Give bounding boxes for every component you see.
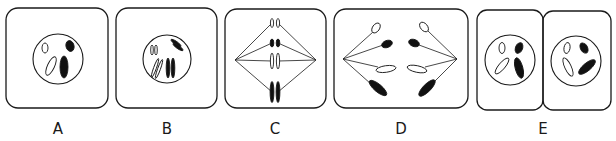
cell-division-diagram [0, 0, 616, 141]
spindle-fiber [343, 32, 373, 59]
panel-label-d: D [386, 120, 416, 138]
chromosome-light [44, 55, 59, 76]
chromosome-dark [166, 58, 170, 78]
chromosome-dark [577, 57, 598, 76]
chromosome-dark [408, 38, 421, 48]
chromosome-dark [171, 58, 175, 78]
spindle-fiber [428, 31, 457, 59]
chromosome-dark [276, 39, 280, 47]
chromosome-dark [367, 78, 389, 98]
panel-label-c: C [260, 120, 290, 138]
chromosome-light [493, 56, 511, 75]
chromosome-dark [60, 56, 68, 78]
chromosome-dark [578, 41, 590, 54]
chromosome-dark [514, 42, 525, 55]
chromosome-dark [276, 82, 280, 103]
panel-e [477, 10, 611, 110]
spindle-fiber [432, 59, 457, 84]
chromosome-light [42, 43, 48, 53]
spindle-fiber [343, 59, 371, 84]
spindle-fiber [278, 60, 316, 92]
cell-membrane [334, 9, 468, 108]
chromosome-dark [270, 82, 274, 103]
cell-membrane [116, 8, 217, 108]
chromosome-dark [381, 39, 394, 49]
cell-membrane [477, 10, 543, 110]
panel-b [116, 8, 217, 108]
cell-membrane [6, 8, 108, 108]
chromosome-light [270, 53, 273, 69]
chromosome-light [563, 42, 571, 54]
panel-c [225, 9, 326, 108]
chromosome-light [151, 45, 154, 55]
spindle-fiber [235, 60, 272, 92]
panel-label-a: A [43, 120, 73, 138]
spindle-fiber [278, 43, 316, 60]
chromosome-light [270, 19, 273, 28]
chromosome-light [155, 45, 158, 55]
spindle-fiber [419, 45, 457, 59]
chromosome-light [561, 57, 575, 78]
nucleus [33, 34, 83, 84]
spindle-fiber [235, 60, 272, 61]
spindle-fiber [278, 23, 316, 60]
spindle-fiber [425, 59, 457, 67]
spindle-fiber [278, 60, 316, 61]
panel-d [334, 9, 468, 108]
panel-label-b: B [152, 120, 182, 138]
spindle-fiber [235, 23, 272, 60]
nucleus [485, 35, 535, 85]
chromosome-light [376, 64, 397, 73]
spindle-fiber [235, 43, 272, 60]
spindle-fiber [343, 45, 383, 59]
chromosome-dark [417, 78, 438, 99]
cell-membrane [225, 9, 326, 108]
panel-a [6, 8, 108, 108]
spindle-fiber [343, 59, 378, 67]
chromosome-light [276, 19, 279, 28]
chromosome-dark [513, 57, 526, 79]
panel-label-e: E [528, 120, 558, 138]
chromosome-dark [65, 40, 76, 53]
chromosome-light [407, 64, 428, 75]
chromosome-light [276, 53, 279, 69]
chromosome-light [499, 43, 505, 54]
chromosome-dark [270, 39, 274, 47]
